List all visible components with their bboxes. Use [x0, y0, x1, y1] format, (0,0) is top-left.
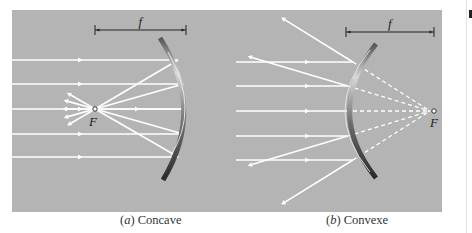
- page-edge-line: [466, 0, 467, 233]
- focal-point-marker: [432, 109, 436, 113]
- focal-point-label: F: [429, 115, 439, 130]
- caption-text-a: Concave: [135, 213, 182, 227]
- caption-text-b: Convexe: [341, 213, 389, 227]
- caption-concave: (a) Concave: [120, 213, 181, 228]
- mirror-diagram: fF fF: [0, 0, 472, 233]
- focal-point-label: F: [88, 114, 98, 129]
- focal-point-marker: [93, 107, 97, 111]
- caption-convex: (b) Convexe: [326, 213, 388, 228]
- caption-letter-b: b: [330, 213, 336, 227]
- caption-letter-a: a: [124, 213, 130, 227]
